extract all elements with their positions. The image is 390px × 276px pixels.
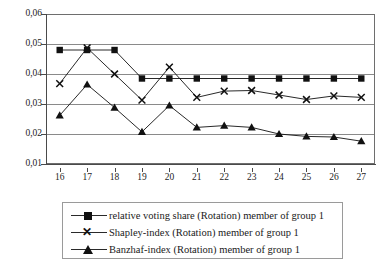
y-axis: 0,060,050,040,030,020,01: [0, 0, 42, 176]
x-tick-label: 21: [184, 172, 210, 182]
x-tick-label: 18: [102, 172, 128, 182]
x-tick-mark: [224, 168, 225, 172]
y-tick-label: 0,06: [2, 9, 42, 19]
x-tick-label: 17: [74, 172, 100, 182]
legend-marker-triangle: [69, 243, 109, 257]
chart-legend: relative voting share (Rotation) member …: [62, 202, 343, 259]
legend-label-banzhaf-index: Banzhaf-index (Rotation) member of group…: [109, 244, 300, 256]
gridline: [47, 104, 374, 105]
x-axis: 161718192021222324252627: [46, 168, 376, 186]
legend-label-shapley-index: Shapley-index (Rotation) member of group…: [109, 227, 299, 239]
y-tick-label: 0,04: [2, 69, 42, 79]
x-tick-label: 22: [211, 172, 237, 182]
x-tick-mark: [169, 168, 170, 172]
legend-marker-x: ✕: [69, 226, 109, 240]
chart-container: 0,060,050,040,030,020,01 161718192021222…: [0, 0, 390, 276]
y-tick-label: 0,02: [2, 129, 42, 139]
x-tick-mark: [252, 168, 253, 172]
x-tick-mark: [115, 168, 116, 172]
x-tick-label: 27: [348, 172, 374, 182]
x-tick-mark: [142, 168, 143, 172]
y-tick-label: 0,03: [2, 99, 42, 109]
legend-label-relative-voting-share: relative voting share (Rotation) member …: [109, 210, 324, 222]
x-tick-label: 19: [129, 172, 155, 182]
y-tick-label: 0,05: [2, 39, 42, 49]
x-tick-mark: [279, 168, 280, 172]
legend-item-banzhaf-index: Banzhaf-index (Rotation) member of group…: [69, 241, 300, 258]
x-tick-label: 23: [239, 172, 265, 182]
legend-marker-square: [69, 209, 109, 223]
y-axis-line: [46, 14, 47, 165]
plot-area: [46, 14, 375, 164]
x-tick-mark: [361, 168, 362, 172]
x-axis-line: [46, 164, 376, 165]
x-tick-mark: [334, 168, 335, 172]
x-tick-label: 16: [47, 172, 73, 182]
y-tick-label: 0,01: [2, 159, 42, 169]
x-tick-label: 20: [156, 172, 182, 182]
legend-item-relative-voting-share: relative voting share (Rotation) member …: [69, 207, 324, 224]
x-tick-mark: [87, 168, 88, 172]
x-tick-mark: [197, 168, 198, 172]
x-tick-label: 25: [293, 172, 319, 182]
gridline: [47, 74, 374, 75]
legend-item-shapley-index: ✕ Shapley-index (Rotation) member of gro…: [69, 224, 299, 241]
x-tick-mark: [306, 168, 307, 172]
gridline: [47, 44, 374, 45]
x-tick-label: 26: [321, 172, 347, 182]
gridline: [47, 134, 374, 135]
x-tick-mark: [60, 168, 61, 172]
x-tick-label: 24: [266, 172, 292, 182]
